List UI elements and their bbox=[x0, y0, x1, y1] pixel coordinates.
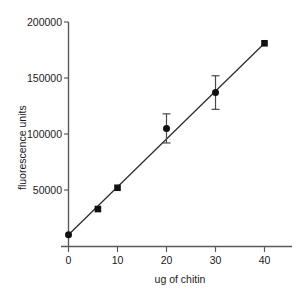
standard-curve-chart: fluorescence units 200000 150000 100000 … bbox=[0, 0, 301, 298]
x-axis-title: ug of chitin bbox=[155, 273, 206, 285]
y-tick-label-200000: 200000 bbox=[27, 16, 62, 28]
y-tick-label-150000: 150000 bbox=[27, 72, 62, 84]
x-tick-label-10: 10 bbox=[112, 254, 124, 266]
y-axis-title: fluorescence units bbox=[16, 105, 28, 190]
data-point-marker bbox=[163, 125, 170, 132]
data-point-marker bbox=[95, 206, 102, 213]
data-point-marker bbox=[212, 89, 219, 96]
chart-figure: fluorescence units 200000 150000 100000 … bbox=[0, 0, 301, 298]
y-tick-label-50000: 50000 bbox=[33, 184, 62, 196]
data-point-marker bbox=[261, 40, 268, 47]
y-tick-label-100000: 100000 bbox=[27, 128, 62, 140]
error-bars bbox=[163, 76, 220, 143]
x-tick-label-30: 30 bbox=[210, 254, 222, 266]
data-point-marker bbox=[65, 231, 72, 238]
x-tick-label-0: 0 bbox=[66, 254, 72, 266]
x-tick-label-40: 40 bbox=[259, 254, 271, 266]
data-point-marker bbox=[114, 184, 121, 191]
x-tick-label-20: 20 bbox=[161, 254, 173, 266]
